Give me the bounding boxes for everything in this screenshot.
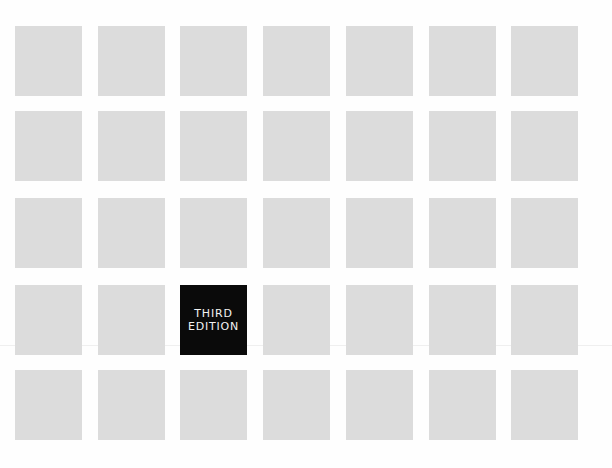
gray-tile [429,370,496,440]
gray-tile [263,111,330,181]
gray-tile [511,370,578,440]
gray-tile [346,26,413,96]
gray-tile [98,285,165,355]
book-cover: THIRDEDITION [0,0,612,468]
edition-badge-line1: THIRD [194,307,232,320]
gray-tile [180,111,247,181]
edition-badge-line2: EDITION [188,320,239,333]
gray-tile [346,198,413,268]
gray-tile [15,198,82,268]
edition-badge: THIRDEDITION [180,285,247,355]
gray-tile [263,26,330,96]
gray-tile [429,111,496,181]
gray-tile [15,370,82,440]
gray-tile [511,198,578,268]
gray-tile [180,198,247,268]
gray-tile [98,370,165,440]
gray-tile [98,198,165,268]
gray-tile [180,26,247,96]
gray-tile [98,26,165,96]
gray-tile [346,111,413,181]
gray-tile [511,26,578,96]
gray-tile [429,198,496,268]
gray-tile [346,285,413,355]
gray-tile [263,285,330,355]
gray-tile [429,26,496,96]
gray-tile [15,26,82,96]
gray-tile [263,370,330,440]
gray-tile [263,198,330,268]
gray-tile [15,285,82,355]
gray-tile [98,111,165,181]
gray-tile [180,370,247,440]
gray-tile [346,370,413,440]
gray-tile [511,285,578,355]
gray-tile [511,111,578,181]
gray-tile [15,111,82,181]
gray-tile [429,285,496,355]
